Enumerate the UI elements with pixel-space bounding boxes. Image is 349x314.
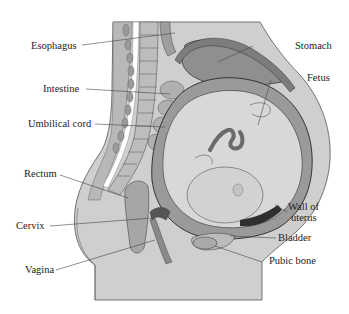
label-esophagus: Esophagus <box>31 40 77 51</box>
pubic-bone <box>193 237 217 249</box>
label-vagina: Vagina <box>25 264 54 275</box>
label-bladder: Bladder <box>278 232 311 243</box>
label-umbilical-cord: Umbilical cord <box>28 118 91 129</box>
label-wall-of-uterus-line2: uterus <box>288 212 319 223</box>
label-intestine: Intestine <box>43 83 79 94</box>
fetal-ear <box>233 184 243 196</box>
label-wall-of-uterus: Wall of uterus <box>288 201 319 223</box>
label-wall-of-uterus-line1: Wall of <box>288 201 319 212</box>
label-pubic-bone: Pubic bone <box>269 255 316 266</box>
label-cervix: Cervix <box>16 220 45 231</box>
label-stomach: Stomach <box>295 40 332 51</box>
fetal-head <box>187 167 263 223</box>
label-fetus: Fetus <box>307 72 330 83</box>
label-rectum: Rectum <box>24 168 57 179</box>
